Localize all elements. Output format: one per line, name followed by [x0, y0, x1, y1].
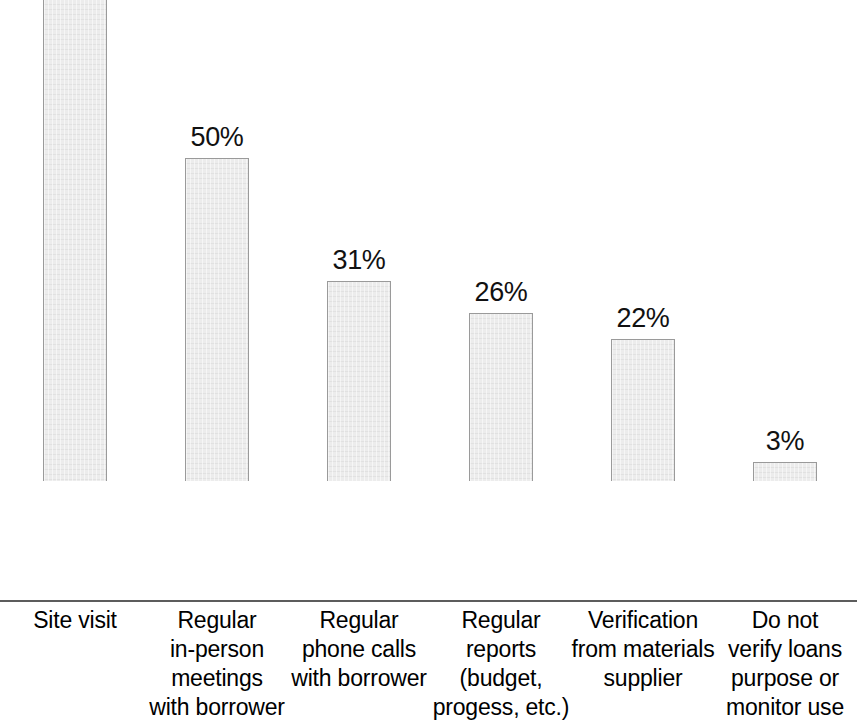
- bar-column: 31%: [288, 0, 430, 481]
- x-axis-tick-label-0: Site visit: [0, 606, 150, 635]
- bar-rect[interactable]: [469, 313, 533, 481]
- bar-rect[interactable]: [611, 339, 675, 481]
- bar-column: 50%: [146, 0, 288, 481]
- x-axis-tick-label-3: Regular reports (budget, progess, etc.): [426, 606, 576, 722]
- bar-rect[interactable]: [185, 158, 249, 481]
- x-axis-tick-label-5: Do not verify loans purpose or monitor u…: [710, 606, 857, 722]
- bar-column: 26%: [430, 0, 572, 481]
- x-axis-tick-label-4: Verification from materials supplier: [568, 606, 718, 693]
- bar-value-label: 31%: [288, 245, 430, 275]
- bar-value-label: 26%: [430, 277, 572, 307]
- bar-column: 3%: [714, 0, 856, 481]
- bar-value-label: 3%: [714, 426, 856, 456]
- x-axis-tick-labels: Site visit Regular in-person meetings wi…: [0, 606, 857, 722]
- bar-rect[interactable]: [43, 0, 107, 481]
- bar-value-label: 50%: [146, 122, 288, 152]
- bar-value-label: 22%: [572, 303, 714, 333]
- bar-rect[interactable]: [753, 462, 817, 481]
- bar-rect[interactable]: [327, 281, 391, 481]
- bar-chart: 87% 50% 31% 26% 22% 3% Site visit Regula…: [0, 0, 857, 722]
- bar-column: 87%: [4, 0, 146, 481]
- bar-column: 22%: [572, 0, 714, 481]
- x-axis-tick-label-2: Regular phone calls with borrower: [284, 606, 434, 693]
- x-axis-line: [0, 600, 857, 602]
- x-axis-tick-label-1: Regular in-person meetings with borrower: [142, 606, 292, 722]
- plot-area: 87% 50% 31% 26% 22% 3%: [0, 0, 857, 602]
